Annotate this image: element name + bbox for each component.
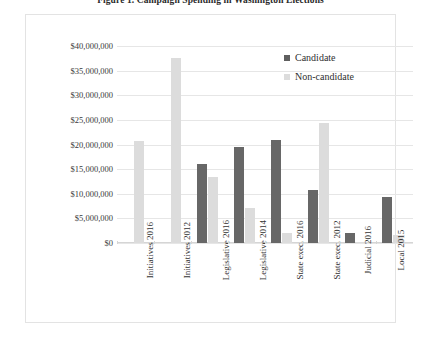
y-axis-tick-label: $0 xyxy=(47,238,113,248)
bar-noncandidate xyxy=(282,233,292,243)
bar-noncandidate xyxy=(245,208,255,243)
x-axis-tick-text: Judicial 2016 xyxy=(363,226,373,274)
x-axis-tick-mark xyxy=(339,241,340,244)
x-axis-tick-mark xyxy=(228,241,229,244)
legend-item-label: Candidate xyxy=(295,52,336,63)
bar-group xyxy=(154,46,191,243)
bar-group xyxy=(117,46,154,243)
chart-frame: $0$5,000,000$10,000,000$15,000,000$20,00… xyxy=(25,14,396,323)
x-axis-tick-text: Local 2015 xyxy=(396,230,406,271)
square-swatch-icon xyxy=(284,74,290,80)
y-axis-tick-label: $40,000,000 xyxy=(47,41,113,51)
x-axis-tick-mark xyxy=(117,241,118,244)
chart-legend: CandidateNon-candidate xyxy=(284,48,406,86)
x-axis-tick-label: State exec. 2012 xyxy=(302,244,339,262)
bar-candidate xyxy=(197,164,207,243)
bar-group xyxy=(228,46,265,243)
x-axis-tick-mark xyxy=(191,241,192,244)
y-axis-tick-label: $10,000,000 xyxy=(47,189,113,199)
y-axis-tick-label: $35,000,000 xyxy=(47,66,113,76)
bar-candidate xyxy=(234,147,244,243)
x-axis-tick-mark xyxy=(376,241,377,244)
bar-candidate xyxy=(345,233,355,243)
bar-noncandidate xyxy=(134,141,144,243)
bar-noncandidate xyxy=(171,58,181,243)
x-axis-tick-label: Legislative 2016 xyxy=(191,244,228,262)
bar-candidate xyxy=(271,140,281,243)
y-axis-tick-label: $25,000,000 xyxy=(47,115,113,125)
legend-item-label: Non-candidate xyxy=(295,71,354,82)
x-axis-tick-label: State exec. 2016 xyxy=(265,244,302,262)
y-axis-tick-label: $5,000,000 xyxy=(47,213,113,223)
y-axis-labels: $0$5,000,000$10,000,000$15,000,000$20,00… xyxy=(45,46,113,243)
y-axis-tick-label: $30,000,000 xyxy=(47,90,113,100)
y-axis-tick-label: $15,000,000 xyxy=(47,164,113,174)
legend-item[interactable]: Candidate xyxy=(284,48,406,67)
x-axis-labels: Initiatives 2016Initiatives 2012Legislat… xyxy=(117,244,413,324)
bar-noncandidate xyxy=(319,123,329,243)
x-axis-tick-label: Initiatives 2012 xyxy=(154,244,191,262)
figure-container: Figure 1. Campaign Spending in Washingto… xyxy=(0,0,421,340)
x-axis-tick-label: Legislative 2014 xyxy=(228,244,265,262)
bar-candidate xyxy=(382,197,392,243)
x-axis-tick-label: Local 2015 xyxy=(376,244,413,262)
x-axis-tick-label: Judicial 2016 xyxy=(339,244,376,262)
figure-caption: Figure 1. Campaign Spending in Washingto… xyxy=(0,0,421,7)
bar-group xyxy=(191,46,228,243)
x-axis-tick-mark xyxy=(265,241,266,244)
bar-candidate xyxy=(308,190,318,243)
y-axis-tick-label: $20,000,000 xyxy=(47,140,113,150)
x-axis-tick-label: Initiatives 2016 xyxy=(117,244,154,262)
legend-item[interactable]: Non-candidate xyxy=(284,67,406,86)
x-axis-tick-mark xyxy=(154,241,155,244)
x-axis-tick-mark xyxy=(302,241,303,244)
bar-noncandidate xyxy=(208,177,218,243)
square-swatch-icon xyxy=(284,55,290,61)
